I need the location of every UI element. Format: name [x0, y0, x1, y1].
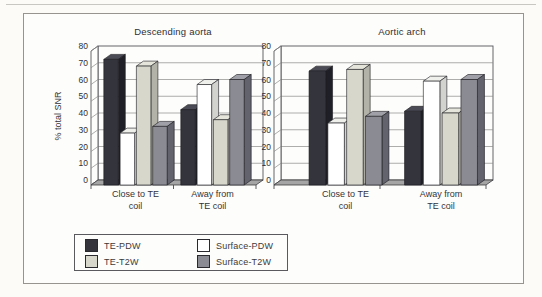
y-tick-label: 80 [79, 41, 89, 51]
bar-side-Surface-T2W [167, 121, 174, 185]
legend-label-surface-t2w: Surface-T2W [216, 257, 271, 267]
y-tick-label: 50 [79, 91, 89, 101]
bar-Surface-T2W-group-1 [230, 80, 245, 186]
y-tick-label: 40 [262, 108, 272, 118]
category-label: Close to TE [112, 189, 159, 199]
legend-label-te-t2w: TE-T2W [104, 257, 139, 267]
chart-legend: TE-PDW Surface-PDW TE-T2W Surface-T2W [74, 234, 288, 271]
category-label: coil [339, 201, 353, 211]
bar-TE-T2W-group-1 [213, 120, 228, 185]
legend-label-te-pdw: TE-PDW [104, 241, 141, 251]
legend-item-te-t2w: TE-T2W [85, 255, 139, 268]
bar-Surface-T2W-group-0 [153, 126, 168, 185]
bar-TE-PDW-group-1 [181, 110, 196, 185]
y-tick-label: 10 [79, 158, 89, 168]
category-label: Away from [191, 189, 233, 199]
legend-item-surface-pdw: Surface-PDW [197, 239, 273, 252]
legend-item-surface-t2w: Surface-T2W [197, 255, 271, 268]
bar-side-Surface-T2W [244, 75, 251, 186]
y-tick-label: 40 [79, 108, 89, 118]
y-tick-label: 70 [262, 58, 272, 68]
y-tick-label: 0 [83, 175, 88, 185]
y-tick-label: 50 [262, 91, 272, 101]
y-tick-label: 20 [262, 142, 272, 152]
bar-Surface-PDW-group-0 [328, 123, 345, 185]
bar-side-Surface-T2W [477, 75, 484, 186]
legend-swatch-surface-t2w [197, 255, 210, 268]
y-tick-label: 20 [79, 142, 89, 152]
figure-frame: 01020304050607080Close to TEcoilAway fro… [23, 13, 524, 284]
y-tick-label: 30 [79, 125, 89, 135]
y-tick-label: 70 [79, 58, 89, 68]
y-tick-label: 60 [262, 75, 272, 85]
legend-label-surface-pdw: Surface-PDW [216, 241, 273, 251]
category-label: Away from [420, 189, 462, 199]
y-tick-label: 0 [266, 175, 271, 185]
category-label: TE coil [199, 201, 227, 211]
scan-artifact-line [6, 4, 536, 5]
chart-svg-0: 01020304050607080Close to TEcoilAway fro… [31, 19, 276, 224]
chart-svg-1: 01020304050607080Close to TEcoilAway fro… [253, 19, 501, 224]
category-label: Close to TE [322, 189, 369, 199]
bar-TE-PDW-group-0 [104, 59, 119, 185]
bar-TE-T2W-group-0 [347, 69, 364, 185]
y-tick-label: 30 [262, 125, 272, 135]
bar-Surface-PDW-group-0 [120, 133, 135, 185]
bar-Surface-T2W-group-1 [461, 80, 478, 186]
bar-TE-T2W-group-1 [442, 113, 459, 185]
bar-TE-PDW-group-0 [309, 71, 326, 185]
bar-Surface-PDW-group-1 [423, 81, 440, 185]
bar-TE-PDW-group-1 [405, 111, 422, 185]
y-tick-label: 10 [262, 158, 272, 168]
y-tick-label: 80 [262, 41, 272, 51]
y-tick-label: 60 [79, 75, 89, 85]
bar-side-Surface-T2W [382, 111, 389, 185]
bar-TE-T2W-group-0 [136, 66, 151, 185]
chart-title: Aortic arch [378, 26, 426, 37]
chart-title: Descending aorta [134, 26, 212, 37]
legend-item-te-pdw: TE-PDW [85, 239, 141, 252]
bar-Surface-PDW-group-1 [197, 85, 212, 185]
category-label: coil [129, 201, 143, 211]
legend-swatch-te-t2w [85, 255, 98, 268]
bar-Surface-T2W-group-0 [365, 116, 382, 185]
legend-swatch-surface-pdw [197, 239, 210, 252]
category-label: TE coil [427, 201, 455, 211]
legend-swatch-te-pdw [85, 239, 98, 252]
y-axis-title: % total SNR [53, 91, 63, 141]
